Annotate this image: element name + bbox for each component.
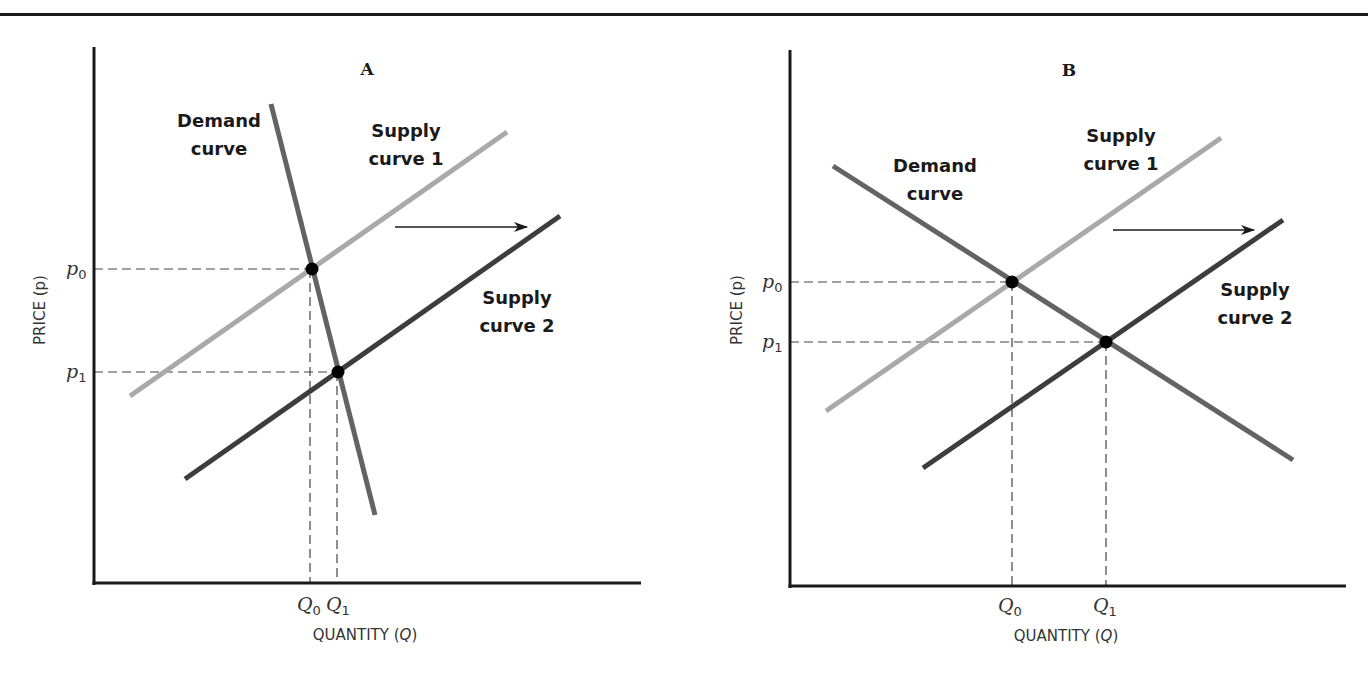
equilibrium-point-1 [332, 366, 345, 379]
y-axis-title: PRICE (p) [728, 275, 746, 345]
q1-tick-label: Q1 [326, 593, 350, 618]
supply2-label-line1: Supply [1220, 279, 1290, 300]
y-axis-title: PRICE (p) [31, 275, 49, 345]
p1-tick-label: p1 [66, 360, 86, 385]
cropped-caption [295, 668, 885, 678]
demand-label-line1: Demand [177, 110, 261, 131]
supply-curve-2-line [185, 216, 560, 479]
demand-label-line1: Demand [893, 155, 977, 176]
panel-title: B [1062, 60, 1076, 80]
q0-tick-label: Q0 [297, 593, 321, 618]
p0-tick-label: p0 [762, 270, 782, 295]
demand-label-line2: curve [191, 138, 247, 159]
guide-lines-a [94, 269, 338, 583]
supply1-label-line2: curve 1 [1083, 153, 1158, 174]
supply1-label-line2: curve 1 [368, 148, 443, 169]
supply1-label-line1: Supply [371, 120, 441, 141]
q1-tick-label: Q1 [1093, 594, 1117, 619]
panel-b: B Demand curve Supply curve 1 Supply cur… [728, 50, 1346, 645]
supply2-label-line2: curve 2 [1217, 307, 1292, 328]
figure: A Demand curve Supply curve 1 Supply cur… [0, 0, 1368, 678]
supply-curve-1-line [130, 132, 507, 396]
equilibrium-point-0 [306, 263, 319, 276]
p0-tick-label: p0 [66, 257, 86, 282]
q0-tick-label: Q0 [998, 594, 1022, 619]
equilibrium-point-0 [1006, 276, 1019, 289]
supply-curve-1-line [826, 138, 1221, 411]
x-axis-title: QUANTITY (Q) [1014, 627, 1118, 645]
supply1-label-line1: Supply [1086, 125, 1156, 146]
equilibrium-point-1 [1100, 336, 1113, 349]
supply2-label-line1: Supply [482, 287, 552, 308]
p1-tick-label: p1 [762, 330, 782, 355]
supply2-label-line2: curve 2 [479, 315, 554, 336]
x-axis-title: QUANTITY (Q) [313, 626, 417, 644]
demand-label-line2: curve [907, 183, 963, 204]
demand-curve-line [271, 104, 375, 515]
panel-title: A [359, 59, 374, 79]
panel-a: A Demand curve Supply curve 1 Supply cur… [31, 47, 641, 644]
